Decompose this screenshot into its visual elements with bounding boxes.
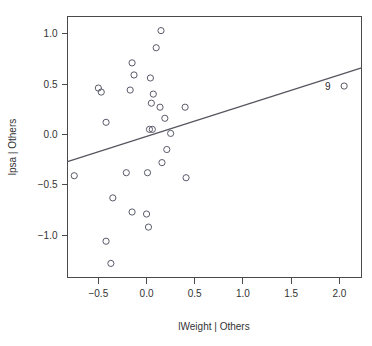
figure-background [0, 0, 372, 346]
x-tick-label: 0.0 [140, 288, 154, 299]
x-tick-label: 0.5 [188, 288, 202, 299]
x-tick-label: 1.5 [284, 288, 298, 299]
x-axis-label: lWeight | Others [178, 321, 249, 332]
x-tick-label: 1.0 [236, 288, 250, 299]
scatter-plot-figure: −0.50.00.51.01.52.0 1.00.50.0−0.5−1.0 9 … [0, 0, 372, 346]
y-tick-label: 0.5 [44, 79, 58, 90]
y-tick-label: 1.0 [44, 28, 58, 39]
y-tick-label: 0.0 [44, 129, 58, 140]
y-tick-label: −1.0 [38, 230, 58, 241]
point-annotations: 9 [325, 81, 331, 92]
x-tick-label: 2.0 [332, 288, 346, 299]
plot-canvas: −0.50.00.51.01.52.0 1.00.50.0−0.5−1.0 9 … [0, 0, 372, 346]
y-tick-label: −0.5 [38, 179, 58, 190]
data-point-label: 9 [325, 81, 331, 92]
x-tick-label: −0.5 [88, 288, 108, 299]
y-axis-label: lpsa | Others [7, 119, 18, 176]
